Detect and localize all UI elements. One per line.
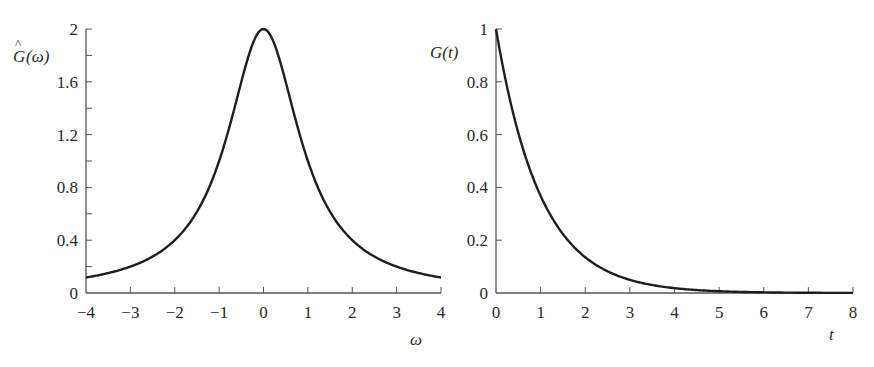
left-x-tick-label: 1 xyxy=(304,303,313,322)
left-x-tick-label: −1 xyxy=(210,303,228,322)
left-x-tick-label: 3 xyxy=(392,303,401,322)
right-x-tick-label: 4 xyxy=(670,303,679,322)
chart-canvas: 00.40.81.21.62 −4−3−2−101234 G ^ (ω) ω 0… xyxy=(0,0,874,367)
left-y-tick-label: 1.6 xyxy=(57,73,78,92)
right-curve-line xyxy=(496,29,853,293)
left-x-tick-label: −2 xyxy=(166,303,184,322)
right-y-tick-label: 0.2 xyxy=(467,231,488,250)
left-x-tick-label: 2 xyxy=(348,303,357,322)
right-y-tick-label: 1 xyxy=(480,20,489,39)
left-y-tick-label: 1.2 xyxy=(57,126,78,145)
left-ylabel-hat: ^ xyxy=(15,36,21,51)
right-x-tick-label: 1 xyxy=(536,303,545,322)
right-x-tick-label: 5 xyxy=(715,303,724,322)
left-x-axis-title: ω xyxy=(410,330,422,349)
left-x-tick-label: 4 xyxy=(437,303,446,322)
left-y-ticks: 00.40.81.21.62 xyxy=(57,20,92,303)
right-x-tick-label: 8 xyxy=(849,303,858,322)
left-x-tick-label: 0 xyxy=(259,303,268,322)
left-x-tick-label: −4 xyxy=(77,303,96,322)
right-plot: 00.20.40.60.81 012345678 G(t) t xyxy=(430,20,857,344)
right-y-tick-label: 0 xyxy=(480,284,489,303)
right-y-tick-label: 0.6 xyxy=(467,126,488,145)
left-curve-line xyxy=(86,29,441,277)
right-y-tick-label: 0.4 xyxy=(467,178,489,197)
left-y-axis-title: G ^ (ω) xyxy=(13,36,50,66)
right-x-tick-label: 3 xyxy=(626,303,635,322)
right-y-tick-label: 0.8 xyxy=(467,73,488,92)
right-y-ticks: 00.20.40.60.81 xyxy=(467,20,502,303)
right-x-tick-label: 7 xyxy=(804,303,813,322)
left-x-ticks: −4−3−2−101234 xyxy=(77,287,446,322)
right-y-axis-title: G(t) xyxy=(430,43,459,62)
left-y-tick-label: 0.8 xyxy=(57,178,78,197)
left-plot: 00.40.81.21.62 −4−3−2−101234 G ^ (ω) ω xyxy=(13,20,446,349)
right-x-tick-label: 6 xyxy=(760,303,769,322)
left-x-tick-label: −3 xyxy=(121,303,139,322)
left-ylabel-arg: (ω) xyxy=(26,47,50,66)
left-y-tick-label: 0 xyxy=(70,284,79,303)
right-x-tick-label: 0 xyxy=(492,303,501,322)
right-x-tick-label: 2 xyxy=(581,303,590,322)
right-x-axis-title: t xyxy=(829,325,835,344)
left-y-tick-label: 0.4 xyxy=(57,231,79,250)
left-y-tick-label: 2 xyxy=(70,20,79,39)
